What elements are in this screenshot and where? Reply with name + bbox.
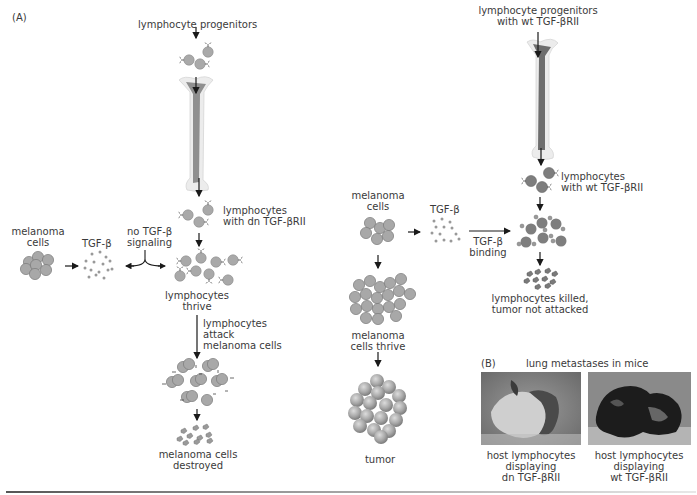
- destroyed-cell-fragments: [177, 424, 213, 446]
- tgf-beta-dots-right: [431, 218, 461, 243]
- tgf-beta-dots: [84, 251, 114, 280]
- tgf-beta-right-label: TGF-β: [430, 204, 460, 215]
- panel-b-label: (B): [481, 358, 496, 369]
- lymphocytes-killed-label: lymphocytes killed, tumor not attacked: [485, 293, 595, 315]
- progenitors-wt-label: lymphocyte progenitors with wt TGF-βRII: [478, 5, 598, 27]
- lymphocytes-dn-label: lymphocytes with dn TGF-βRII: [223, 205, 306, 227]
- no-signaling-bracket: [126, 250, 165, 266]
- tumor-label: tumor: [350, 454, 410, 465]
- bone-marrow-wt-icon: [527, 39, 558, 159]
- melanoma-destroyed-label: melanoma cells destroyed: [158, 449, 238, 471]
- lung-photo-wt: [588, 372, 691, 445]
- panel-a-label: (A): [12, 12, 27, 23]
- thriving-melanoma-cluster: [349, 273, 415, 324]
- caption-dn: host lymphocytes displaying dn TGF-βRII: [476, 450, 586, 483]
- killed-lymphocyte-fragments: [524, 268, 558, 290]
- tumor-cluster: [348, 374, 407, 444]
- panel-b-title: lung metastases in mice: [526, 358, 648, 369]
- lymphocytes-attack-label: lymphocytes attack melanoma cells: [203, 318, 282, 351]
- caption-wt: host lymphocytes displaying wt TGF-βRII: [584, 450, 694, 483]
- progenitors-label: lymphocyte progenitors: [138, 19, 257, 30]
- melanoma-thrive-label: melanoma cells thrive: [345, 330, 411, 352]
- melanoma-cells-cluster-right: [360, 217, 394, 244]
- melanoma-cells-cluster: [20, 251, 53, 279]
- no-signaling-label: no TGF-β signaling: [127, 226, 172, 248]
- bone-marrow-icon: [179, 77, 213, 192]
- lymphocytes-wt-label: lymphocytes with wt TGF-βRII: [561, 171, 643, 193]
- lymphocytes-thrive-label: lymphocytes thrive: [165, 290, 229, 312]
- wt-lymphocytes: [522, 168, 559, 193]
- melanoma-cells-label: melanoma cells: [8, 226, 68, 248]
- tgf-bound-lymphocytes: [517, 215, 567, 248]
- thriving-lymphocytes: [175, 249, 243, 286]
- bottom-rule: [6, 491, 696, 493]
- tgf-beta-binding-label: TGF-β binding: [465, 236, 511, 258]
- attacked-melanoma-cluster: [162, 358, 234, 405]
- tgf-beta-label: TGF-β: [82, 238, 112, 249]
- melanoma-cells-right-label: melanoma cells: [348, 190, 408, 212]
- lung-photo-dn: [481, 372, 581, 445]
